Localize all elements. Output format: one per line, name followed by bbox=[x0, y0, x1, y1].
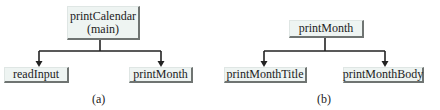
caption-b: (b) bbox=[317, 92, 331, 107]
node-label: printMonth bbox=[133, 68, 188, 81]
node-print-month-title: printMonthTitle bbox=[224, 67, 307, 83]
node-print-month-root: printMonth bbox=[289, 20, 364, 38]
caption-a: (a) bbox=[92, 92, 105, 107]
node-label: printMonthTitle bbox=[227, 68, 304, 81]
node-print-month-body: printMonthBody bbox=[343, 67, 424, 83]
connector-lines bbox=[0, 0, 440, 110]
node-label: printCalendar bbox=[70, 10, 136, 23]
node-read-input: readInput bbox=[4, 67, 69, 83]
node-label: printMonth bbox=[299, 22, 354, 35]
node-print-month: printMonth bbox=[129, 67, 193, 83]
node-label: printMonthBody bbox=[343, 68, 424, 81]
node-sublabel: (main) bbox=[87, 23, 119, 36]
node-print-calendar: printCalendar (main) bbox=[67, 6, 140, 40]
node-label: readInput bbox=[13, 68, 59, 81]
